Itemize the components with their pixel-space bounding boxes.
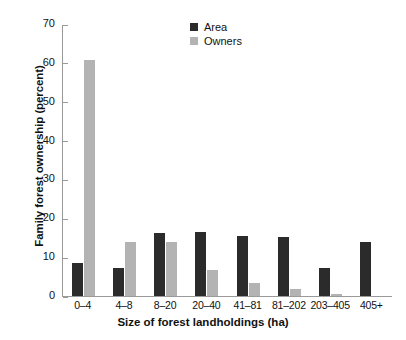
bar-group bbox=[310, 25, 351, 296]
x-axis-tick-label: 203–405 bbox=[310, 299, 351, 311]
y-axis-tick-label: 30 bbox=[43, 172, 55, 184]
bar-group bbox=[228, 25, 269, 296]
x-axis-tick-label: 4–8 bbox=[103, 299, 144, 311]
bar-owners[interactable] bbox=[249, 283, 260, 296]
bar-area[interactable] bbox=[113, 268, 124, 296]
bar-groups bbox=[63, 25, 392, 296]
y-axis-tick-label: 20 bbox=[43, 211, 55, 223]
x-axis-title: Size of forest landholdings (ha) bbox=[0, 316, 406, 328]
bar-group bbox=[269, 25, 310, 296]
x-axis-tick-label: 81–202 bbox=[268, 299, 309, 311]
x-axis-tick-label: 405+ bbox=[351, 299, 392, 311]
bar-group bbox=[145, 25, 186, 296]
bar-group bbox=[104, 25, 145, 296]
legend-label: Owners bbox=[204, 35, 242, 47]
bar-area[interactable] bbox=[278, 237, 289, 296]
plot-area: 010203040506070 bbox=[62, 25, 392, 297]
x-axis-tick-labels: 0–44–88–2020–4041–8181–202203–405405+ bbox=[62, 299, 392, 311]
bar-group bbox=[186, 25, 227, 296]
y-axis-tick-mark bbox=[63, 297, 68, 298]
legend-label: Area bbox=[204, 21, 227, 33]
y-axis-tick-label: 40 bbox=[43, 134, 55, 146]
bar-area[interactable] bbox=[195, 232, 206, 297]
legend: AreaOwners bbox=[190, 20, 242, 48]
y-axis-tick-label: 60 bbox=[43, 56, 55, 68]
legend-item-area[interactable]: Area bbox=[190, 20, 242, 34]
bar-owners[interactable] bbox=[207, 270, 218, 296]
x-axis-tick-label: 0–4 bbox=[62, 299, 103, 311]
y-axis-tick-label: 70 bbox=[43, 17, 55, 29]
legend-swatch-icon bbox=[190, 23, 198, 31]
bar-area[interactable] bbox=[360, 242, 371, 296]
y-axis-tick-label: 10 bbox=[43, 250, 55, 262]
x-axis-tick-label: 20–40 bbox=[186, 299, 227, 311]
bar-owners[interactable] bbox=[125, 242, 136, 296]
bar-owners[interactable] bbox=[84, 60, 95, 296]
y-axis-tick-label: 0 bbox=[49, 289, 55, 301]
x-axis-tick-label: 8–20 bbox=[145, 299, 186, 311]
bar-area[interactable] bbox=[72, 263, 83, 296]
bar-area[interactable] bbox=[154, 233, 165, 296]
bar-owners[interactable] bbox=[166, 242, 177, 296]
chart-figure: Family forest ownership (percent) 010203… bbox=[0, 0, 406, 340]
bar-owners[interactable] bbox=[331, 294, 342, 296]
bar-area[interactable] bbox=[319, 268, 330, 296]
y-axis-tick-label: 50 bbox=[43, 95, 55, 107]
x-axis-tick-label: 41–81 bbox=[227, 299, 268, 311]
bar-group bbox=[63, 25, 104, 296]
bar-group bbox=[351, 25, 392, 296]
legend-swatch-icon bbox=[190, 37, 198, 45]
bar-area[interactable] bbox=[237, 236, 248, 296]
legend-item-owners[interactable]: Owners bbox=[190, 34, 242, 48]
bar-owners[interactable] bbox=[290, 289, 301, 296]
